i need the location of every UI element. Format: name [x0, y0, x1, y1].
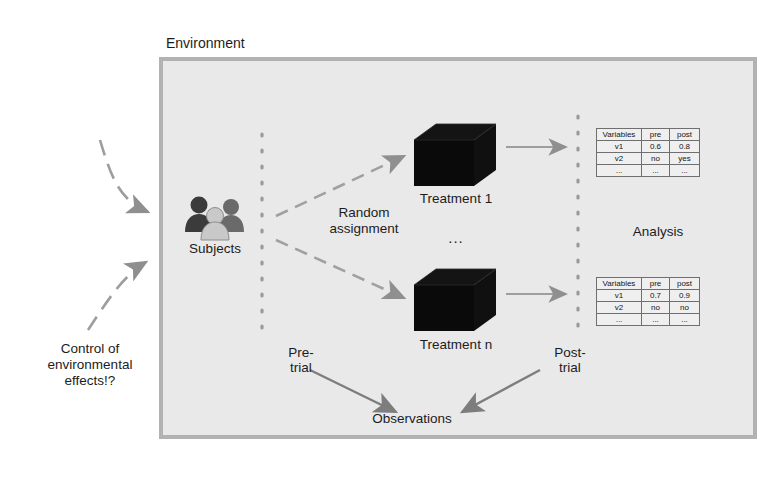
- table-row: ... ... ...: [597, 314, 700, 326]
- analysis-label: Analysis: [608, 224, 708, 239]
- diagram-canvas: Environment Control of environmental eff…: [0, 0, 774, 498]
- treatment-1-results-table: Variables pre post v1 0.6 0.8 v2 no yes …: [596, 128, 700, 177]
- post-trial-label: Post- trial: [544, 345, 596, 375]
- treatment-1-label: Treatment 1: [398, 191, 514, 206]
- table-cell: ...: [642, 165, 670, 177]
- table-cell: ...: [597, 314, 642, 326]
- table-cell: yes: [670, 153, 700, 165]
- table-cell: no: [642, 302, 670, 314]
- treatment-ellipsis-label: ...: [398, 230, 514, 245]
- table-cell: v2: [597, 153, 642, 165]
- table-cell: 0.6: [642, 141, 670, 153]
- table-row: ... ... ...: [597, 165, 700, 177]
- treatment-n-results-table: Variables pre post v1 0.7 0.9 v2 no no .…: [596, 277, 700, 326]
- table-row: v2 no yes: [597, 153, 700, 165]
- table-cell: 0.7: [642, 290, 670, 302]
- table-cell: 0.8: [670, 141, 700, 153]
- table-cell: ...: [597, 165, 642, 177]
- control-of-environmental-effects-note: Control of environmental effects!?: [24, 341, 156, 389]
- control-arrow-upper: [100, 140, 148, 212]
- table-header-cell: post: [670, 129, 700, 141]
- table-header-cell: pre: [642, 278, 670, 290]
- table-cell: ...: [670, 165, 700, 177]
- table-cell: v1: [597, 141, 642, 153]
- table-cell: v1: [597, 290, 642, 302]
- table-row: v2 no no: [597, 302, 700, 314]
- control-arrow-lower: [88, 262, 146, 330]
- table-cell: ...: [642, 314, 670, 326]
- table-cell: no: [642, 153, 670, 165]
- random-assignment-label: Random assignment: [318, 205, 410, 237]
- table-header-cell: Variables: [597, 129, 642, 141]
- table-header-cell: post: [670, 278, 700, 290]
- table-cell: 0.9: [670, 290, 700, 302]
- treatment-n-label: Treatment n: [398, 337, 514, 352]
- table-header-cell: pre: [642, 129, 670, 141]
- observations-label: Observations: [352, 411, 472, 426]
- table-cell: no: [670, 302, 700, 314]
- environment-label: Environment: [166, 36, 245, 51]
- table-header-row: Variables pre post: [597, 278, 700, 290]
- table-row: v1 0.6 0.8: [597, 141, 700, 153]
- pre-trial-label: Pre- trial: [276, 345, 326, 375]
- table-row: v1 0.7 0.9: [597, 290, 700, 302]
- table-cell: v2: [597, 302, 642, 314]
- table-header-row: Variables pre post: [597, 129, 700, 141]
- table-cell: ...: [670, 314, 700, 326]
- subjects-label: Subjects: [180, 241, 250, 256]
- table-header-cell: Variables: [597, 278, 642, 290]
